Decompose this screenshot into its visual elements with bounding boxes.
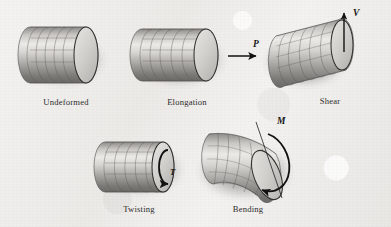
- label-shear: Shear: [300, 96, 360, 106]
- end-cap: [74, 27, 98, 83]
- load-symbol-P: P: [253, 39, 259, 49]
- cylinder-body: [18, 27, 98, 83]
- load-symbol-T: T: [170, 167, 175, 177]
- label-undeformed: Undeformed: [27, 97, 105, 107]
- figure-canvas: Undeformed Elongation Shear Twisting Ben…: [0, 0, 391, 227]
- label-elongation: Elongation: [148, 97, 226, 107]
- panel-bending: [197, 122, 293, 204]
- cylinder-body: [130, 29, 218, 81]
- cylinder-body: [94, 142, 174, 192]
- deformation-diagram: [0, 0, 391, 227]
- label-bending: Bending: [212, 204, 284, 214]
- panel-shear: [263, 13, 354, 88]
- load-symbol-M: M: [277, 116, 285, 126]
- load-symbol-V: V: [353, 8, 359, 18]
- end-cap: [194, 29, 218, 81]
- panel-elongation: [130, 29, 256, 87]
- label-twisting: Twisting: [103, 204, 175, 214]
- cylinder-body: [268, 18, 353, 87]
- end-cap: [331, 20, 353, 70]
- panel-undeformed: [18, 27, 106, 87]
